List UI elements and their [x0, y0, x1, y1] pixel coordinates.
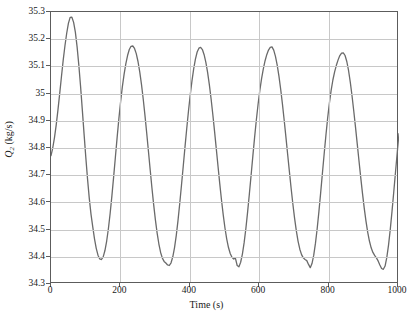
- x-tick-label: 0: [26, 286, 74, 296]
- gridline-vertical: [329, 12, 330, 282]
- chart-figure: 35.3 35.2 35.1 35 34.9 34.8 34.7 34.6 34…: [0, 0, 413, 318]
- gridline-horizontal: [51, 94, 397, 95]
- series-q2-line: [51, 17, 399, 269]
- gridline-horizontal: [51, 121, 397, 122]
- y-tick-label: 35.1: [1, 61, 45, 71]
- y-axis-symbol: Q: [3, 151, 14, 158]
- x-tick-label: 400: [165, 286, 213, 296]
- gridline-horizontal: [51, 39, 397, 40]
- gridline-horizontal: [51, 66, 397, 67]
- x-tick-label: 600: [234, 286, 282, 296]
- y-axis-subscript: 2: [8, 147, 16, 151]
- x-tick-label: 1000: [373, 286, 413, 296]
- y-axis-units: (kg/s): [3, 121, 14, 144]
- plot-area: [50, 11, 398, 283]
- gridline-horizontal: [51, 257, 397, 258]
- y-axis-title: Q2 (kg/s): [4, 92, 17, 188]
- gridline-vertical: [259, 12, 260, 282]
- gridline-horizontal: [51, 175, 397, 176]
- gridline-horizontal: [51, 230, 397, 231]
- y-tick-label: 34.5: [1, 225, 45, 235]
- gridline-horizontal: [51, 202, 397, 203]
- y-tick-label: 35.2: [1, 34, 45, 44]
- y-tick-label: 34.6: [1, 198, 45, 208]
- y-tick-label: 35.3: [1, 7, 45, 17]
- x-tick-label: 200: [95, 286, 143, 296]
- gridline-vertical: [190, 12, 191, 282]
- x-axis-title: Time (s): [0, 300, 413, 310]
- gridline-vertical: [120, 12, 121, 282]
- x-tick-label: 800: [304, 286, 352, 296]
- y-tick-label: 34.4: [1, 252, 45, 262]
- gridline-horizontal: [51, 148, 397, 149]
